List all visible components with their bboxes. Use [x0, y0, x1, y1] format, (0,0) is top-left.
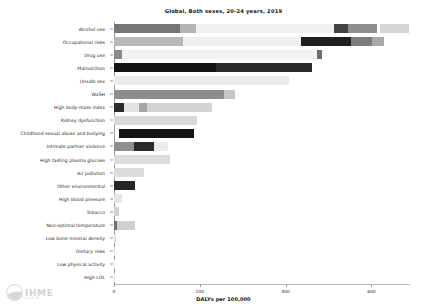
bar-segment[interactable] [114, 260, 115, 269]
bar-segment[interactable] [114, 181, 135, 190]
bar-segment[interactable] [154, 142, 168, 151]
x-axis-tick-label: 600 [367, 289, 375, 294]
y-axis-label: Kidney dysfunction [61, 118, 105, 123]
bar-segment[interactable] [348, 24, 377, 33]
bar-row[interactable] [114, 247, 410, 256]
bar-row[interactable] [114, 260, 410, 269]
y-axis-tick [110, 28, 113, 29]
y-axis-tick [110, 238, 113, 239]
y-axis-label: Low physical activity [57, 262, 105, 267]
bar-row[interactable] [114, 207, 410, 216]
x-axis-tick [371, 284, 372, 287]
bar-segment[interactable] [114, 273, 115, 282]
bar-segment[interactable] [134, 142, 154, 151]
y-axis-tick [110, 159, 113, 160]
y-axis-label: Air pollution [77, 170, 105, 175]
y-axis-tick [110, 107, 113, 108]
y-axis-tick [110, 94, 113, 95]
chart-figure: Global, Both sexes, 20-24 years, 2019 Al… [0, 0, 447, 308]
bar-row[interactable] [114, 90, 410, 99]
y-axis-label: Malnutrition [77, 65, 105, 70]
y-axis-label: High body-mass index [54, 105, 105, 110]
x-axis-tick [286, 284, 287, 287]
y-axis-label: High fasting plasma glucose [40, 157, 105, 162]
y-axis-tick [110, 172, 113, 173]
y-axis-label: WaSH [92, 92, 105, 97]
y-axis-label: High blood pressure [59, 196, 105, 201]
bar-segment[interactable] [114, 207, 119, 216]
bar-segment[interactable] [114, 194, 122, 203]
bar-row[interactable] [114, 103, 410, 112]
y-axis-tick [110, 198, 113, 199]
y-axis-label: Occupational risks [63, 39, 105, 44]
bar-segment[interactable] [114, 155, 170, 164]
x-axis-line [114, 284, 410, 285]
bar-segment[interactable] [114, 234, 116, 243]
bar-segment[interactable] [139, 103, 147, 112]
bar-row[interactable] [114, 142, 410, 151]
ihme-globe-icon [6, 284, 23, 301]
bar-segment[interactable] [122, 50, 317, 59]
y-axis-tick [110, 41, 113, 42]
bar-segment[interactable] [183, 37, 302, 46]
bar-row[interactable] [114, 129, 410, 138]
chart-title: Global, Both sexes, 20-24 years, 2019 [0, 8, 447, 14]
bar-segment[interactable] [119, 129, 194, 138]
bar-segment[interactable] [380, 24, 409, 33]
bar-segment[interactable] [114, 168, 144, 177]
bar-row[interactable] [114, 76, 410, 85]
bar-row[interactable] [114, 116, 410, 125]
bar-segment[interactable] [114, 24, 180, 33]
x-axis-title: DALYs per 100,000 [0, 296, 447, 302]
bar-row[interactable] [114, 194, 410, 203]
bar-segment[interactable] [301, 37, 351, 46]
y-axis-tick [110, 225, 113, 226]
bar-row[interactable] [114, 63, 410, 72]
bar-segment[interactable] [114, 103, 124, 112]
y-axis-label-group: Alcohol useOccupational risksDrug useMal… [0, 22, 110, 284]
bar-row[interactable] [114, 181, 410, 190]
bar-row[interactable] [114, 155, 410, 164]
bar-segment[interactable] [114, 116, 197, 125]
bar-segment[interactable] [216, 63, 313, 72]
bar-row[interactable] [114, 37, 410, 46]
y-axis-tick [110, 211, 113, 212]
y-axis-tick [110, 54, 113, 55]
bar-segment[interactable] [124, 103, 139, 112]
bar-row[interactable] [114, 168, 410, 177]
bar-segment[interactable] [317, 50, 322, 59]
y-axis-label: Alcohol use [79, 26, 105, 31]
bar-segment[interactable] [114, 247, 115, 256]
bar-row[interactable] [114, 24, 410, 33]
bar-row[interactable] [114, 50, 410, 59]
bar-segment[interactable] [334, 24, 348, 33]
bar-segment[interactable] [114, 76, 289, 85]
bar-segment[interactable] [114, 142, 134, 151]
y-axis-label: Intimate partner violence [47, 144, 105, 149]
bar-row[interactable] [114, 234, 410, 243]
x-axis-tick [114, 284, 115, 287]
bar-segment[interactable] [351, 37, 372, 46]
bar-segment[interactable] [196, 24, 335, 33]
y-axis-label: Drug use [84, 52, 105, 57]
y-axis-tick [110, 264, 113, 265]
bar-segment[interactable] [180, 24, 196, 33]
bar-segment[interactable] [147, 103, 212, 112]
bar-segment[interactable] [117, 221, 135, 230]
bar-segment[interactable] [114, 63, 216, 72]
y-axis-tick [110, 120, 113, 121]
y-axis-tick [110, 185, 113, 186]
bar-segment[interactable] [224, 90, 236, 99]
bar-segment[interactable] [372, 37, 384, 46]
y-axis-tick [110, 277, 113, 278]
bar-row[interactable] [114, 273, 410, 282]
y-axis-label: Dietary risks [76, 249, 105, 254]
y-axis-tick [110, 67, 113, 68]
y-axis-tick [110, 80, 113, 81]
bar-row[interactable] [114, 221, 410, 230]
x-axis-tick [200, 284, 201, 287]
bar-segment[interactable] [114, 37, 183, 46]
y-axis-label: Non-optimal temperature [46, 223, 105, 228]
bar-segment[interactable] [114, 50, 122, 59]
bar-segment[interactable] [114, 90, 224, 99]
